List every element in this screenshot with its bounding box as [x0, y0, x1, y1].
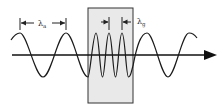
wave-diagram: λa λg	[0, 0, 221, 109]
lambda-a-label: λa	[38, 19, 47, 29]
lambda-a-arrow-right-icon	[60, 21, 65, 26]
lambda-g-label: λg	[137, 17, 146, 28]
wave-left-lead	[11, 33, 20, 40]
axis-arrowhead-icon	[204, 50, 217, 60]
lambda-a-arrow-left-icon	[21, 21, 26, 26]
